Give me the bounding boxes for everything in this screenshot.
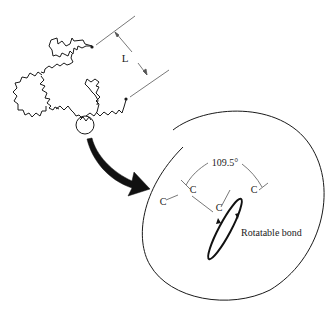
bond-angle-label: 109.5° xyxy=(212,157,239,168)
carbon-atom-3: C xyxy=(216,202,223,213)
carbon-atom-2: C xyxy=(190,184,197,195)
polymer-chain-diagram: L 109.5° C C C C Rotatable bond xyxy=(0,0,336,315)
carbon-atom-1: C xyxy=(160,196,167,207)
end-to-end-dimension xyxy=(96,16,169,97)
rotatable-bond-label: Rotatable bond xyxy=(241,227,302,238)
carbon-atom-4: C xyxy=(251,184,258,195)
rotation-arrow-head xyxy=(216,218,221,224)
dimension-label-L: L xyxy=(122,52,129,64)
zoom-arrow xyxy=(87,138,150,196)
polymer-coil xyxy=(13,38,126,134)
chain-end-dot xyxy=(124,97,127,100)
chain-end-dot xyxy=(90,45,93,48)
rotation-ellipse xyxy=(204,196,247,262)
